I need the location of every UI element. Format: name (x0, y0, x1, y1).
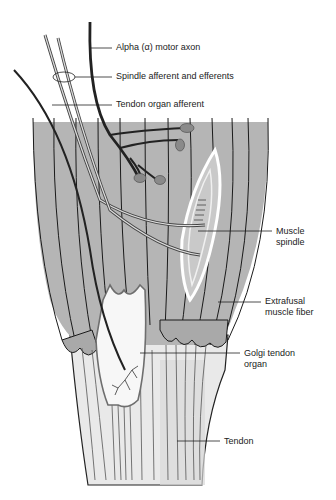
label-alpha-motor-axon: Alpha (α) motor axon (116, 42, 200, 53)
label-muscle-spindle-line1: Muscle (276, 226, 305, 237)
label-tendon: Tendon (224, 436, 254, 447)
label-extrafusal-line2: muscle fiber (265, 307, 314, 318)
label-extrafusal: Extrafusal muscle fiber (265, 296, 314, 318)
label-muscle-spindle-line2: spindle (276, 237, 305, 248)
label-golgi-line1: Golgi tendon (244, 348, 295, 359)
label-tendon-organ-afferent: Tendon organ afferent (116, 99, 204, 110)
label-golgi-tendon-organ: Golgi tendon organ (244, 348, 295, 370)
label-muscle-spindle: Muscle spindle (276, 226, 305, 248)
label-extrafusal-line1: Extrafusal (265, 296, 314, 307)
label-spindle-afferent: Spindle afferent and efferents (116, 71, 234, 82)
label-golgi-line2: organ (244, 359, 295, 370)
golgi-tendon-organ (96, 285, 146, 407)
